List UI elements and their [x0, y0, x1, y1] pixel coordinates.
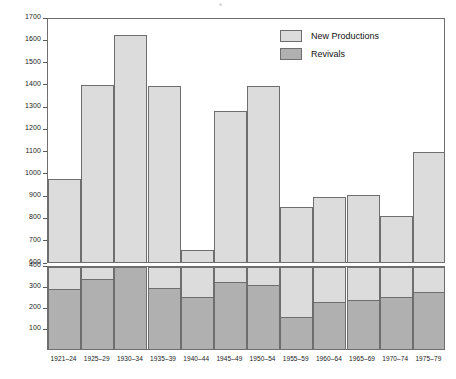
bar-new-productions	[313, 197, 346, 262]
legend-item-new-productions: New Productions	[280, 30, 379, 42]
upper-bar-slot	[81, 19, 114, 262]
bar-revivals	[114, 267, 147, 349]
upper-bar-slot	[114, 19, 147, 262]
y-tick-label: 1100	[26, 147, 41, 155]
bar-revivals	[313, 302, 346, 349]
x-axis-label: 1965–69	[346, 354, 379, 363]
y-tick-label: 1300	[25, 102, 41, 110]
y-tick-label: 400	[29, 261, 41, 269]
x-axis-label: 1970–74	[379, 354, 412, 363]
upper-bar-slot	[247, 19, 280, 262]
y-tick-label: 1600	[25, 35, 41, 43]
legend-swatch-revivals	[280, 48, 302, 60]
bar-new-productions	[48, 179, 81, 262]
lower-bar-slot	[181, 267, 214, 349]
x-axis-label: 1955–59	[279, 354, 312, 363]
upper-bar-slot	[214, 19, 247, 262]
upper-bar-slot	[148, 19, 181, 262]
lower-plot-area	[48, 267, 444, 349]
upper-bar-slot	[48, 19, 81, 262]
upper-plot-panel	[47, 18, 445, 263]
lower-bar-slot	[347, 267, 380, 349]
lower-bar-slot	[214, 267, 247, 349]
upper-bar-slot	[181, 19, 214, 262]
y-tick-label: 900	[29, 191, 41, 199]
x-axis-labels: 1921–241925–291930–341935–391940–441945–…	[47, 354, 445, 370]
x-axis-label: 1940–44	[180, 354, 213, 363]
legend-label-revivals: Revivals	[311, 49, 345, 60]
chart-legend: New Productions Revivals	[280, 30, 379, 60]
x-axis-label: 1925–29	[80, 354, 113, 363]
bar-new-productions	[347, 195, 380, 262]
lower-bar-slot	[313, 267, 346, 349]
y-tick-label: 300	[29, 282, 41, 290]
bar-revivals	[81, 279, 114, 349]
y-tick-label: 1000	[25, 169, 41, 177]
y-tick-label: 700	[29, 236, 41, 244]
lower-bar-slot	[114, 267, 147, 349]
lower-y-axis: 100200300400	[0, 266, 47, 350]
legend-swatch-new-productions	[280, 30, 302, 42]
bar-new-productions	[114, 35, 147, 262]
upper-plot-area	[48, 19, 444, 262]
y-tick-label: 1200	[25, 124, 41, 132]
bar-new-productions	[181, 250, 214, 262]
lower-bar-slot	[413, 267, 444, 349]
bar-new-productions	[380, 216, 413, 262]
scan-artifact-speck	[219, 3, 222, 6]
bar-revivals	[280, 317, 313, 349]
bar-revivals	[214, 282, 247, 349]
lower-bar-slot	[48, 267, 81, 349]
bar-revivals	[380, 297, 413, 349]
x-axis-label: 1930–34	[113, 354, 146, 363]
bar-revivals	[347, 300, 380, 349]
broken-axis-bar-chart: 6007008009001000110012001300140015001600…	[0, 0, 456, 379]
lower-bar-slot	[280, 267, 313, 349]
x-axis-label: 1945–49	[213, 354, 246, 363]
legend-label-new-productions: New Productions	[311, 31, 379, 42]
bar-revivals	[413, 292, 444, 349]
legend-item-revivals: Revivals	[280, 48, 379, 60]
lower-bar-slot	[148, 267, 181, 349]
y-tick-label: 1400	[25, 80, 41, 88]
lower-bar-slot	[81, 267, 114, 349]
x-axis-label: 1935–39	[147, 354, 180, 363]
lower-plot-panel	[47, 266, 445, 350]
bar-new-productions	[280, 207, 313, 262]
bar-new-productions	[413, 152, 444, 262]
y-tick-label: 800	[29, 213, 41, 221]
lower-bar-slot	[380, 267, 413, 349]
y-tick-label: 100	[29, 324, 41, 332]
x-axis-label: 1950–54	[246, 354, 279, 363]
upper-bar-slot	[413, 19, 444, 262]
bar-new-productions	[214, 111, 247, 262]
x-axis-label: 1975–79	[412, 354, 445, 363]
bar-new-productions	[148, 86, 181, 262]
bar-new-productions	[81, 85, 114, 262]
bar-revivals	[148, 288, 181, 349]
x-axis-label: 1960–64	[312, 354, 345, 363]
upper-y-axis: 6007008009001000110012001300140015001600…	[0, 18, 47, 263]
y-tick-label: 200	[29, 303, 41, 311]
bar-revivals	[181, 297, 214, 349]
bar-revivals	[48, 289, 81, 349]
bar-revivals	[247, 285, 280, 349]
x-axis-label: 1921–24	[47, 354, 80, 363]
lower-bar-slot	[247, 267, 280, 349]
y-tick-label: 1500	[25, 58, 41, 66]
y-tick-label: 600	[29, 258, 41, 266]
y-tick-label: 1700	[25, 13, 41, 21]
upper-bar-slot	[380, 19, 413, 262]
bar-new-productions	[247, 86, 280, 262]
